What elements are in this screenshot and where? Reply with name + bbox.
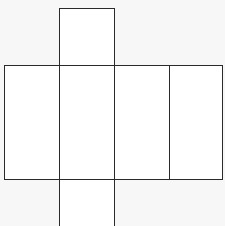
net-face-bottom [59,179,115,226]
net-face-row-2 [59,65,115,180]
net-face-row-4 [169,65,223,180]
net-face-row-1 [4,65,60,180]
net-face-top [59,8,115,66]
net-face-row-3 [114,65,170,180]
